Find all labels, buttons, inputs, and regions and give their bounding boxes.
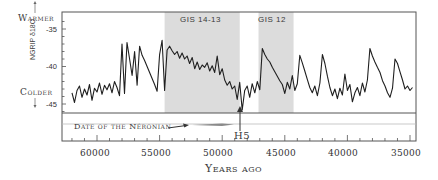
neronian-label: Date of the Néronian	[74, 122, 171, 131]
x-tick-label: 55000	[141, 148, 171, 158]
x-axis-label: Years ago	[205, 162, 262, 175]
gis-12-label: GIS 12	[258, 15, 286, 24]
x-tick-label: 35000	[391, 148, 421, 158]
ngrip-trace	[72, 40, 413, 110]
gis-12-shade	[259, 12, 294, 113]
warmer-arrowhead-icon	[34, 1, 37, 4]
y-axis-label: NGRIP δ18O	[29, 19, 36, 60]
x-tick-label: 45000	[266, 148, 296, 158]
y-tick-label: -35	[46, 25, 57, 34]
colder-arrowhead-icon	[34, 105, 37, 108]
h5-label: H5	[234, 130, 250, 141]
x-tick-label: 50000	[203, 148, 233, 158]
gis-14-13-label: GIS 14-13	[180, 15, 221, 24]
warmer-label: Warmer	[18, 13, 54, 23]
gis-14-13-shade	[165, 12, 240, 113]
x-tick-label: 40000	[328, 148, 358, 158]
y-axis-ticks	[62, 22, 66, 112]
colder-label: Colder	[20, 87, 53, 97]
x-tick-label: 60000	[80, 148, 110, 158]
y-tick-label: -40	[46, 62, 57, 71]
y-tick-label: -45	[46, 100, 57, 109]
